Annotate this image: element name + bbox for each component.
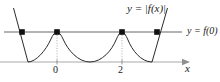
x-tick-label-0: 0 [53,65,58,75]
level-line-label: y = f(0) [187,26,218,36]
absolute-value-curve [14,8,168,62]
curve-label: y = |f(x)| [127,3,166,14]
x-axis-label: x [185,63,190,74]
intersection-dot-left [19,29,25,35]
intersection-dot-right [154,29,160,35]
intersection-dot-x2 [119,29,125,35]
graph-figure: y = |f(x)| y = f(0) x 0 2 [0,0,220,82]
x-tick-label-2: 2 [118,65,123,75]
intersection-dot-x0 [54,29,60,35]
